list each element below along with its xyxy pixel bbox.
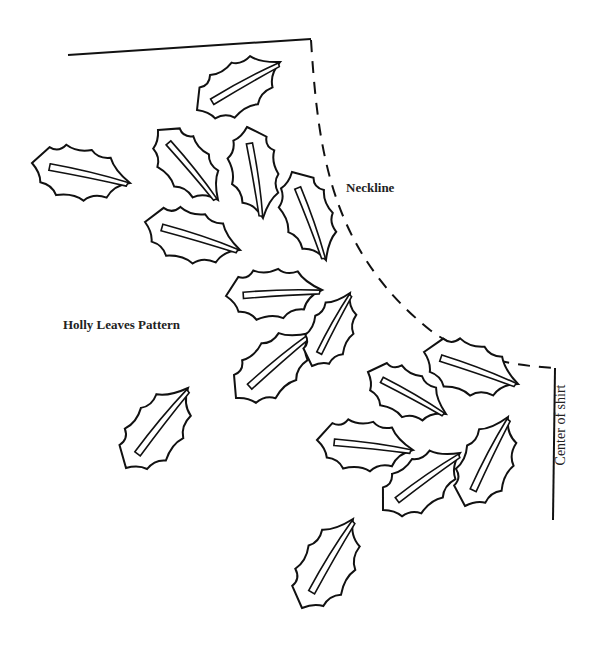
holly-leaf-icon [225,266,324,321]
shoulder-line [68,39,311,55]
holly-leaf-icon [138,199,247,276]
holly-leaf-icon [185,41,293,132]
holly-leaf-icon [280,506,377,621]
center-of-shirt-label: Center of shirt [553,385,569,466]
holly-leaf-icon [106,373,209,485]
holly-leaf-icon [27,139,135,209]
neckline-label: Neckline [346,180,394,196]
holly-leaf-icon [139,115,235,216]
holly-leaf-icon [223,123,286,222]
holly-leaf-icon [314,416,415,475]
holly-leaf-icon [269,164,348,269]
pattern-title: Holly Leaves Pattern [63,317,180,333]
